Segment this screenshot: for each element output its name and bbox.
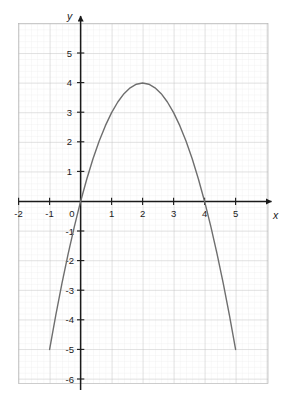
x-tick-label-3: 3 bbox=[171, 208, 176, 219]
x-axis-label: x bbox=[272, 209, 279, 221]
y-tick-label-1: 1 bbox=[67, 166, 72, 177]
x-tick-label-0: 0 bbox=[69, 208, 74, 219]
y-tick-label--3: -3 bbox=[66, 285, 74, 296]
y-tick-label-3: 3 bbox=[67, 107, 72, 118]
x-tick-label-2: 2 bbox=[140, 208, 145, 219]
y-tick-label--6: -6 bbox=[66, 374, 74, 385]
grid-layer bbox=[19, 23, 268, 383]
y-axis-label: y bbox=[66, 10, 73, 22]
x-tick-label-1: 1 bbox=[109, 208, 114, 219]
graph-figure: -2 -1 0 1 2 3 4 5 5 4 3 2 1 -1 -2 -3 -4 … bbox=[0, 0, 286, 397]
y-tick-label--4: -4 bbox=[66, 314, 74, 325]
x-tick-label--1: -1 bbox=[45, 208, 53, 219]
major-gridlines bbox=[19, 23, 268, 383]
x-tick-label-5: 5 bbox=[233, 208, 238, 219]
y-tick-label-4: 4 bbox=[67, 77, 72, 88]
y-tick-label--5: -5 bbox=[66, 344, 74, 355]
x-tick-label--2: -2 bbox=[14, 208, 22, 219]
y-tick-label-5: 5 bbox=[67, 48, 72, 59]
y-tick-label-2: 2 bbox=[67, 136, 72, 147]
coordinate-plane-chart: -2 -1 0 1 2 3 4 5 5 4 3 2 1 -1 -2 -3 -4 … bbox=[0, 0, 286, 397]
